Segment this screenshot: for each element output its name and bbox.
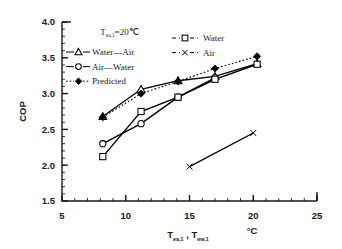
legend-label: Predicted: [92, 76, 126, 86]
legend-label: Air—Water: [92, 62, 134, 72]
data-point-open-circle: [76, 64, 82, 70]
y-axis-label: COP: [17, 101, 28, 122]
y-tick-label: 3.5: [42, 52, 56, 63]
data-point-open-square: [182, 35, 188, 41]
y-tick-label: 2.5: [42, 124, 56, 135]
x-axis-unit: °C: [247, 225, 258, 236]
x-tick-label: 20: [248, 210, 259, 221]
data-point-open-square: [138, 108, 144, 114]
x-tick-label: 5: [59, 210, 65, 221]
x-tick-label: 25: [312, 210, 323, 221]
y-tick-label: 3.0: [42, 88, 55, 99]
chart-figure: 1.52.02.53.03.54.0 510152025 Tea,1=20℃ W…: [0, 0, 342, 249]
legend-label: Water—Air: [92, 47, 134, 57]
data-point-open-circle: [100, 141, 106, 147]
x-tick-label: 15: [184, 210, 195, 221]
y-tick-label: 4.0: [42, 16, 55, 27]
data-point-open-square: [254, 61, 260, 67]
cop-vs-inlet-temperature-chart: 1.52.02.53.03.54.0 510152025 Tea,1=20℃ W…: [0, 0, 342, 249]
y-tick-label: 1.5: [42, 195, 56, 206]
data-point-open-square: [212, 76, 218, 82]
y-tick-label: 2.0: [42, 160, 55, 171]
legend-label: Air: [203, 48, 215, 58]
data-point-open-circle: [138, 121, 144, 127]
data-point-open-square: [100, 154, 106, 160]
data-point-open-square: [175, 94, 181, 100]
x-tick-label: 10: [120, 210, 131, 221]
legend-left: Water—AirAir—WaterPredicted: [66, 47, 134, 86]
legend-label: Water: [203, 33, 224, 43]
y-axis-title: COP: [17, 101, 28, 122]
